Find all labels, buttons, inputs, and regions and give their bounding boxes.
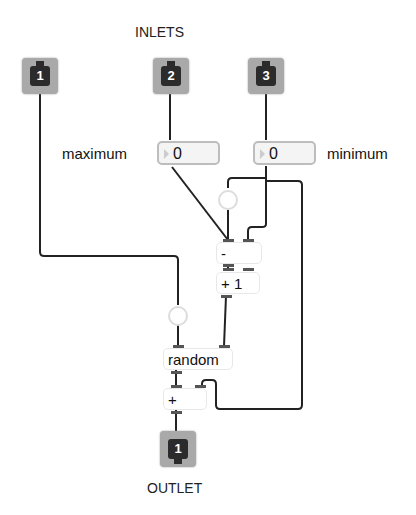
random-object-text: random: [168, 351, 219, 368]
subtract-object-text: -: [221, 245, 226, 262]
patch-cords: [0, 0, 416, 515]
outlet-title: OUTLET: [147, 480, 202, 496]
add-object-text: +: [168, 391, 177, 408]
inlet-3-number: 3: [256, 66, 276, 86]
inlet-1[interactable]: 1: [22, 58, 58, 94]
outlet-marker: [171, 371, 182, 374]
maximum-value: 0: [173, 145, 182, 163]
inlet-marker: [243, 268, 254, 271]
subtract-object[interactable]: -: [216, 242, 262, 264]
plus-one-object[interactable]: + 1: [216, 272, 260, 294]
outlet-marker: [221, 295, 232, 298]
bang-button-1[interactable]: [218, 190, 238, 210]
outlet-marker: [171, 411, 182, 414]
outlet-1[interactable]: 1: [160, 431, 196, 467]
triangle-icon: [164, 149, 169, 159]
bang-button-2[interactable]: [168, 306, 188, 326]
inlet-2-number: 2: [161, 66, 181, 86]
inlet-3[interactable]: 3: [248, 58, 284, 94]
triangle-icon: [260, 149, 265, 159]
inlet-1-number: 1: [30, 66, 50, 86]
minimum-label: minimum: [327, 145, 388, 162]
outlet-marker: [223, 264, 234, 267]
inlet-marker: [223, 268, 234, 271]
minimum-number-box[interactable]: 0: [253, 141, 316, 165]
outlet-1-number: 1: [168, 439, 188, 459]
inlet-2[interactable]: 2: [153, 58, 189, 94]
minimum-value: 0: [269, 145, 278, 163]
inlets-title: INLETS: [135, 24, 184, 40]
plus-one-object-text: + 1: [221, 275, 242, 292]
maximum-number-box[interactable]: 0: [157, 141, 220, 165]
random-object[interactable]: random: [163, 348, 233, 370]
maximum-label: maximum: [62, 145, 127, 162]
add-object[interactable]: +: [163, 388, 207, 410]
